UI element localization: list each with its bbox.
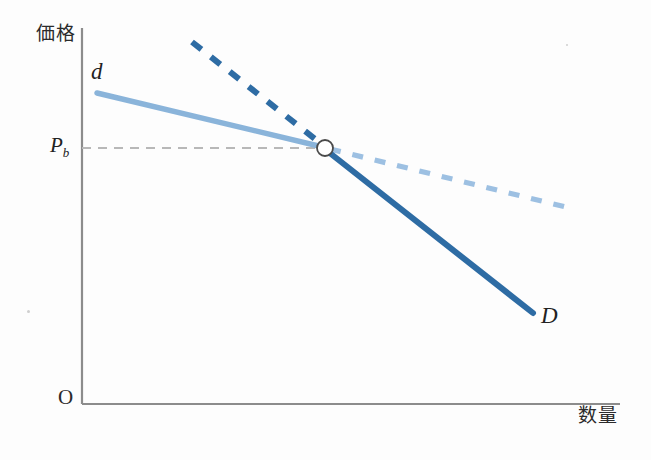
scan-speck: [27, 310, 30, 313]
origin-label: O: [58, 385, 73, 410]
equilibrium-price-subscript: b: [63, 145, 70, 160]
scan-speck: [566, 44, 568, 46]
x-axis-title: 数量: [578, 400, 618, 427]
equilibrium-price-symbol: P: [50, 133, 63, 157]
demand-curve-figure: 価格 数量 d D Pb O: [0, 0, 651, 460]
y-axis-title: 価格: [36, 18, 76, 45]
individual-demand-curve-label: d: [91, 59, 103, 85]
equilibrium-price-label: Pb: [50, 133, 69, 161]
market-demand-curve-label: D: [541, 303, 558, 329]
equilibrium-point-marker: [317, 140, 333, 156]
